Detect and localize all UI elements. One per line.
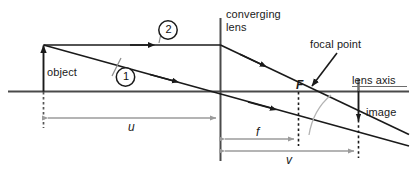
converging-lens-label-line1: converging bbox=[226, 8, 281, 21]
ray-1-number-label: 1 bbox=[121, 70, 132, 82]
focal-point-symbol-label: F bbox=[296, 78, 303, 92]
lens-axis-label: lens axis bbox=[352, 74, 396, 87]
image-label: image bbox=[366, 106, 396, 119]
ray-2-number-label: 2 bbox=[163, 23, 174, 35]
object-label: object bbox=[47, 66, 77, 79]
focal-point-label: focal point bbox=[310, 38, 361, 51]
diagram-canvas bbox=[0, 0, 417, 179]
ray-1-through-centre bbox=[44, 45, 410, 146]
dimension-f-label: f bbox=[256, 125, 259, 139]
lens-ray-diagram: object converging lens focal point F len… bbox=[0, 0, 417, 179]
dimension-v-label: v bbox=[286, 153, 292, 167]
converging-lens-label-line2: lens bbox=[226, 21, 247, 34]
dimension-u-label: u bbox=[128, 120, 135, 134]
ray-2-parallel-then-focal bbox=[44, 45, 410, 135]
